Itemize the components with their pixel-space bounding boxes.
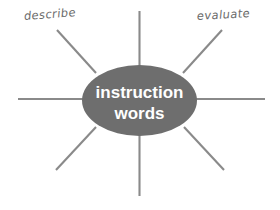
spider-diagram: instruction words describe evaluate <box>0 0 280 210</box>
spoke-bottom-left <box>56 127 96 170</box>
spoke-bottom-right <box>184 127 224 170</box>
spoke-top-right <box>183 30 222 73</box>
center-label-line2: words <box>113 104 164 123</box>
spider-diagram-canvas: instruction words <box>0 0 280 210</box>
center-label-line1: instruction <box>96 83 184 102</box>
spoke-top-left <box>57 30 96 73</box>
